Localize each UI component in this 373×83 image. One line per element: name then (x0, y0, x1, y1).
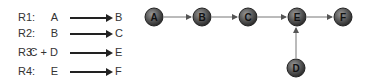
node-a: A (145, 8, 163, 26)
node-b: B (193, 8, 211, 26)
reaction-network-graph: A B C E F D (0, 0, 373, 83)
node-c: C (239, 8, 257, 26)
svg-text:E: E (294, 12, 301, 23)
svg-text:B: B (198, 12, 205, 23)
svg-text:A: A (150, 12, 157, 23)
svg-text:D: D (292, 63, 299, 74)
node-d: D (287, 59, 305, 77)
svg-text:F: F (340, 12, 346, 23)
graph-nodes: A B C E F D (145, 8, 352, 77)
node-f: F (334, 8, 352, 26)
node-e: E (288, 8, 306, 26)
svg-text:C: C (244, 12, 251, 23)
